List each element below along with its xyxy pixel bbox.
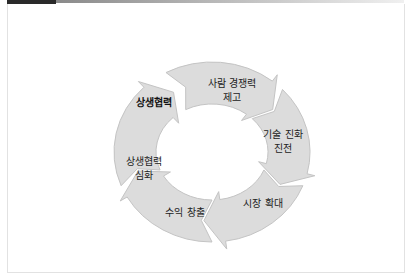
cycle-step-3: 시장 확대 [243,198,282,209]
cycle-step-4: 수익 창출 [165,207,204,218]
step-3-line1: 시장 확대 [243,198,282,209]
step-4-line1: 수익 창출 [165,207,204,218]
step-2-line1: 기술 진화 [263,129,302,140]
arrow-1-icon [166,62,277,120]
step-1-line1: 사람 경쟁력 [208,77,256,89]
step-5-line1: 상생협력 [126,155,162,167]
step-5-line2: 심화 [135,170,153,181]
step-2-line2: 진전 [274,143,292,154]
step-1-line2: 제고 [223,92,241,103]
cycle-diagram: 상생협력 사람 경쟁력 제고 기술 진화 진전 시장 확대 수익 창출 상생협력… [0,0,411,278]
center-label: 상생협력 [136,96,172,108]
